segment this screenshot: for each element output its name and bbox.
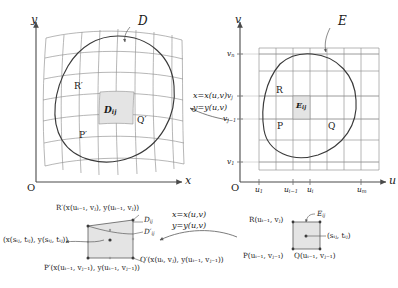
- left-vertex-R-label: R′: [74, 82, 83, 91]
- left-region-leader: [125, 27, 130, 42]
- left-axis-x-label: x: [185, 175, 191, 186]
- left-cell-label: Dij: [104, 106, 116, 115]
- transform-equation-x-lower: x=x(u,v): [172, 211, 206, 219]
- right-u-tick-2: ui: [307, 186, 313, 194]
- left-axis-y-label: y: [31, 14, 37, 25]
- change-of-variables-figure: y x O D R′ Q′ P′ Dij v u O E R Q P Eij v…: [0, 0, 398, 288]
- transform-equation-y-lower: y=y(u,v): [172, 222, 206, 230]
- right-u-tick-3: um: [357, 186, 367, 194]
- right-axes: [240, 22, 386, 182]
- right-cell-label: Eij: [296, 101, 306, 111]
- right-rectangular-grid: [259, 48, 379, 170]
- right-v-tick-0: vn: [227, 50, 235, 58]
- right-vertex-Q-label: Q: [328, 122, 335, 131]
- detail-left-cell-Dprime-label: D′ij: [144, 228, 154, 236]
- figure-vector-layer: [0, 0, 398, 288]
- left-region-label: D: [138, 15, 148, 27]
- left-origin-label: O: [27, 183, 35, 193]
- right-u-tick-0: u1: [255, 186, 263, 194]
- right-u-tick-1: ui−1: [284, 186, 298, 194]
- right-origin-label: O: [231, 183, 239, 193]
- left-vertex-P-label: P′: [79, 131, 87, 140]
- detail-right-vertex-P-label: P(uᵢ₋₁, vⱼ₋₁): [243, 252, 283, 259]
- detail-right-vertex-R-label: R(uᵢ₋₁, vⱼ): [249, 216, 283, 223]
- detail-left-vertex-Q-label: Q′(x(uᵢ, vⱼ), y(uᵢ₋₁, vⱼ₋₁)): [140, 256, 224, 263]
- transform-arrow-lower: [160, 231, 237, 240]
- right-v-tick-2: vj−1: [223, 115, 236, 123]
- transform-equation-x-upper: x=x(u,v): [193, 92, 227, 100]
- right-v-tick-3: v1: [227, 158, 235, 166]
- detail-right-cell-E-label: Eij: [317, 210, 325, 218]
- detail-left-vertex-R-label: R′(x(uᵢ₋₁, vⱼ), y(uᵢ₋₁, vⱼ)): [56, 204, 139, 211]
- detail-left-cell-D-label: Dij: [144, 216, 153, 224]
- right-axis-v-label: v: [235, 14, 241, 25]
- transform-equation-y-upper: y=y(u,v): [193, 104, 227, 112]
- detail-right-cell: [292, 214, 326, 250]
- detail-right-center-label: (sᵢⱼ, tᵢⱼ): [327, 232, 350, 239]
- detail-left-center-label: (x(sᵢⱼ, tᵢⱼ), y(sᵢⱼ, tᵢⱼ)): [3, 236, 68, 243]
- right-region-label: E: [338, 15, 347, 27]
- right-vertex-P-label: P: [277, 122, 283, 131]
- right-region-leader: [325, 28, 330, 52]
- detail-right-vertex-Q-label: Q(uᵢ₋₁, vⱼ₋₁): [294, 252, 335, 259]
- right-v-tick-1: vj: [227, 92, 233, 100]
- right-axis-u-label: u: [389, 175, 396, 186]
- detail-left-cell: [66, 215, 143, 261]
- right-vertex-R-label: R: [276, 86, 283, 95]
- left-vertex-Q-label: Q′: [137, 116, 146, 125]
- detail-left-vertex-P-label: P′(x(uᵢ₋₁, vⱼ₋₁), y(uᵢ₋₁, vⱼ₋₁)): [44, 264, 140, 271]
